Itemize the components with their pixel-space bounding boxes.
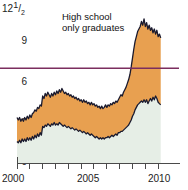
series-areas	[17, 19, 161, 163]
unemployment-by-education-chart: 121/2 9 6 3 0 2000 2005 2010 High school…	[0, 0, 188, 190]
plot-area	[0, 0, 188, 190]
